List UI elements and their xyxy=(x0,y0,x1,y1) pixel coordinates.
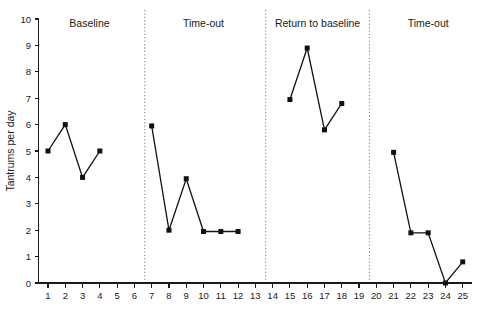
x-tick-label-20: 20 xyxy=(371,290,382,301)
x-tick-label-22: 22 xyxy=(406,290,417,301)
data-point-marker xyxy=(80,175,85,180)
series-line-phase-3 xyxy=(290,48,342,130)
data-point-marker xyxy=(149,123,154,128)
x-tick-label-14: 14 xyxy=(267,290,278,301)
series-line-phase-1 xyxy=(48,125,100,178)
x-tick-label-17: 17 xyxy=(319,290,330,301)
data-point-marker xyxy=(97,149,102,154)
series-line-phase-4 xyxy=(394,152,463,283)
data-point-marker xyxy=(201,229,206,234)
y-tick-label-1: 1 xyxy=(26,251,31,262)
data-point-marker xyxy=(391,150,396,155)
x-axis: 1234567891011121314151617181920212223242… xyxy=(39,283,472,301)
phase-label-1: Baseline xyxy=(69,17,109,29)
data-point-marker xyxy=(63,122,68,127)
x-tick-label-9: 9 xyxy=(184,290,189,301)
x-tick-label-3: 3 xyxy=(80,290,85,301)
data-point-marker xyxy=(460,259,465,264)
y-tick-label-6: 6 xyxy=(26,119,31,130)
x-tick-label-16: 16 xyxy=(302,290,313,301)
x-tick-label-23: 23 xyxy=(423,290,434,301)
data-point-marker xyxy=(408,230,413,235)
x-tick-label-21: 21 xyxy=(388,290,399,301)
x-tick-label-11: 11 xyxy=(216,290,226,301)
y-tick-label-0: 0 xyxy=(26,278,31,289)
phase-label-4: Time-out xyxy=(408,17,449,29)
x-tick-label-13: 13 xyxy=(250,290,261,301)
x-tick-label-18: 18 xyxy=(336,290,347,301)
y-tick-label-2: 2 xyxy=(26,225,31,236)
x-tick-label-5: 5 xyxy=(114,290,119,301)
x-tick-label-8: 8 xyxy=(166,290,171,301)
phase-dividers xyxy=(145,10,370,283)
y-tick-label-8: 8 xyxy=(26,66,31,77)
x-tick-label-12: 12 xyxy=(233,290,244,301)
x-tick-label-15: 15 xyxy=(285,290,296,301)
x-tick-label-6: 6 xyxy=(132,290,137,301)
x-tick-label-10: 10 xyxy=(198,290,209,301)
y-tick-label-9: 9 xyxy=(26,40,31,51)
data-point-marker xyxy=(287,97,292,102)
phase-label-3: Return to baseline xyxy=(275,17,360,29)
x-tick-label-1: 1 xyxy=(45,290,50,301)
y-tick-label-10: 10 xyxy=(20,14,31,25)
data-point-marker xyxy=(339,101,344,106)
x-tick-label-2: 2 xyxy=(63,290,68,301)
chart-svg: BaselineTime-outReturn to baselineTime-o… xyxy=(0,0,499,317)
x-tick-label-4: 4 xyxy=(97,290,102,301)
data-point-marker xyxy=(322,127,327,132)
x-tick-label-25: 25 xyxy=(457,290,468,301)
tantrums-per-day-chart: BaselineTime-outReturn to baselineTime-o… xyxy=(0,0,499,317)
y-tick-label-4: 4 xyxy=(26,172,31,183)
data-point-marker xyxy=(218,229,223,234)
data-point-marker xyxy=(426,230,431,235)
data-point-marker xyxy=(236,229,241,234)
y-axis-title: Tantrums per day xyxy=(4,110,16,192)
x-tick-label-24: 24 xyxy=(440,290,451,301)
data-series xyxy=(46,46,466,286)
phase-labels: BaselineTime-outReturn to baselineTime-o… xyxy=(69,17,448,29)
data-point-marker xyxy=(305,46,310,51)
y-axis: 012345678910 xyxy=(20,14,38,289)
data-point-marker xyxy=(46,149,51,154)
data-point-marker xyxy=(166,228,171,233)
x-tick-label-19: 19 xyxy=(354,290,365,301)
series-line-phase-2 xyxy=(152,126,238,232)
y-tick-label-7: 7 xyxy=(26,93,31,104)
y-tick-label-3: 3 xyxy=(26,198,31,209)
phase-label-2: Time-out xyxy=(183,17,224,29)
y-tick-label-5: 5 xyxy=(26,146,31,157)
data-point-marker xyxy=(184,176,189,181)
x-tick-label-7: 7 xyxy=(149,290,154,301)
data-point-marker xyxy=(443,281,448,286)
y-axis-title-group: Tantrums per day xyxy=(4,110,16,192)
